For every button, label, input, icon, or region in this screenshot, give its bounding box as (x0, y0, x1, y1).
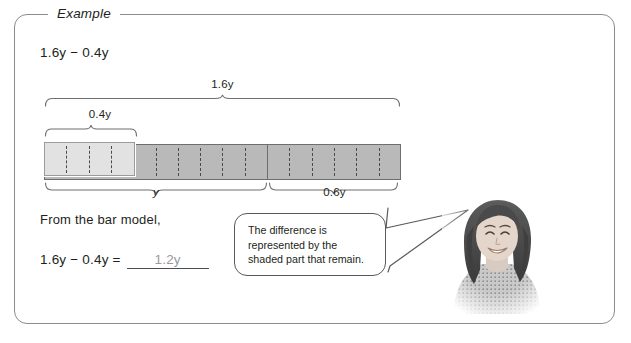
example-panel-page: Example 1.6y − 0.4y 1.6y 0.4y (0, 0, 631, 343)
bar-remainder-label: 0.6y (268, 186, 401, 198)
answer-row: 1.6y − 0.4y = 1.2y (40, 252, 209, 269)
callout-text: The difference is represented by the sha… (248, 223, 380, 267)
bar-whole-label: y (44, 186, 268, 198)
cell-divider (178, 148, 179, 176)
cell-divider (289, 148, 290, 176)
cell-divider (66, 146, 67, 173)
brace-part (44, 124, 139, 137)
from-bar-model-text: From the bar model, (40, 212, 161, 227)
bar-total-label: 1.6y (44, 78, 401, 90)
whole-remainder-divider (267, 144, 268, 180)
brace-total (44, 94, 401, 107)
callout-bubble: The difference is represented by the sha… (234, 213, 386, 276)
bar-graphic (44, 144, 401, 180)
cell-divider (334, 148, 335, 176)
answer-blank[interactable]: 1.2y (127, 252, 209, 269)
cell-divider (111, 146, 112, 173)
callout-line-1: The difference is (248, 224, 327, 236)
example-legend-label: Example (48, 6, 120, 22)
cell-divider (312, 148, 313, 176)
cell-divider (89, 146, 90, 173)
cell-divider (222, 148, 223, 176)
callout-line-2: represented by the (248, 239, 337, 251)
bar-part-label: 0.4y (44, 108, 156, 120)
cell-divider (245, 148, 246, 176)
cell-divider (156, 148, 157, 176)
bar-model: 1.6y 0.4y (44, 78, 401, 203)
cell-divider (356, 148, 357, 176)
smiling-woman-photo (442, 196, 552, 318)
cell-divider (379, 148, 380, 176)
callout-line-3: shaded part that remain. (248, 253, 364, 265)
cell-divider (200, 148, 201, 176)
answer-expression: 1.6y − 0.4y = (40, 252, 121, 267)
bar-light-region (43, 141, 136, 177)
problem-expression: 1.6y − 0.4y (40, 45, 109, 60)
